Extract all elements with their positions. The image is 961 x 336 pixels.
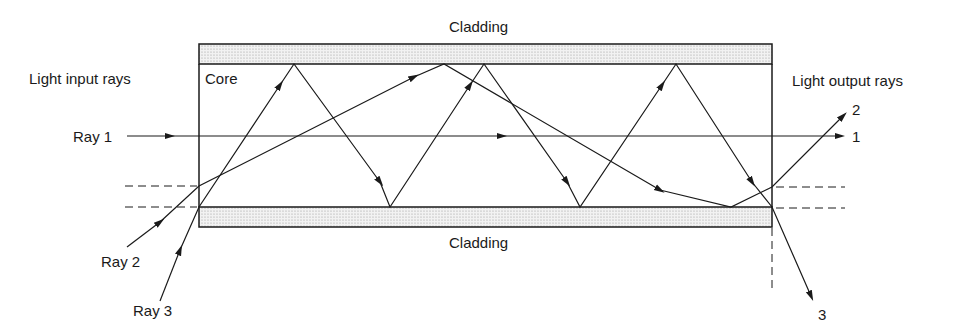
cladding-bottom bbox=[199, 207, 772, 227]
core-label: Core bbox=[205, 70, 238, 87]
input-heading: Light input rays bbox=[29, 70, 131, 87]
output-heading: Light output rays bbox=[792, 72, 903, 89]
ray-1-label: Ray 1 bbox=[73, 128, 112, 145]
output-3-label: 3 bbox=[818, 306, 826, 323]
ray-2-label: Ray 2 bbox=[101, 253, 140, 270]
cladding-top bbox=[199, 44, 772, 64]
cladding-bottom-label: Cladding bbox=[449, 234, 508, 251]
fiber-diagram: Cladding Cladding Core Light input rays … bbox=[0, 0, 961, 336]
cladding-top-label: Cladding bbox=[449, 18, 508, 35]
ray-3-path bbox=[160, 64, 811, 301]
output-2-label: 2 bbox=[852, 101, 860, 118]
output-1-label: 1 bbox=[852, 128, 860, 145]
ray-3-label: Ray 3 bbox=[133, 302, 172, 319]
